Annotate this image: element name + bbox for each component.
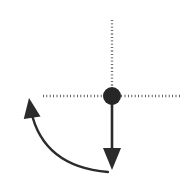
pivot-node: [103, 87, 121, 105]
diagram-canvas: [0, 0, 186, 186]
background-rect: [0, 0, 186, 186]
mechanics-diagram: [0, 0, 186, 186]
